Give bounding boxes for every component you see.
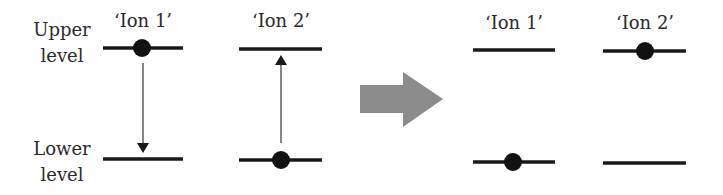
upper-level-label-line2: level [41, 45, 84, 66]
before-ion1-title: ‘Ion 1’ [114, 10, 172, 31]
energy-transfer-diagram: Upper level Lower level ‘Ion 1’ ‘Ion 2’ … [0, 0, 723, 195]
after-ion2: ‘Ion 2’ [603, 12, 686, 163]
before-ion1: ‘Ion 1’ [103, 10, 183, 159]
before-ion2-title: ‘Ion 2’ [252, 10, 310, 31]
after-ion1: ‘Ion 1’ [473, 12, 555, 171]
arrowhead-down-icon [137, 143, 149, 153]
before-ion2-particle [272, 151, 290, 169]
lower-level-label-line1: Lower [33, 138, 91, 159]
lower-level-label-line2: level [41, 164, 84, 185]
after-ion1-title: ‘Ion 1’ [485, 12, 543, 33]
process-arrow-icon [360, 72, 443, 127]
after-ion2-particle [636, 42, 654, 60]
upper-level-label-line1: Upper [33, 19, 91, 40]
after-ion1-particle [504, 153, 522, 171]
after-ion2-title: ‘Ion 2’ [616, 12, 674, 33]
before-ion1-particle [133, 39, 151, 57]
before-ion2: ‘Ion 2’ [239, 10, 322, 169]
arrowhead-up-icon [275, 55, 287, 65]
